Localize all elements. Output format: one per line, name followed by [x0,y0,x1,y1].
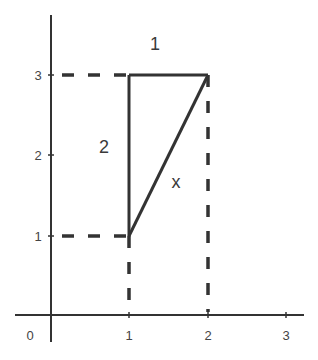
y-tick-2: 2 [34,148,41,163]
y-tick-1: 1 [34,229,41,244]
label-left-side: 2 [99,137,109,157]
x-tick-3: 3 [282,328,289,343]
dashed-guides [62,75,208,312]
y-tick-3: 3 [34,68,41,83]
axis-ticks [48,75,286,318]
triangle-hypotenuse [129,75,208,236]
label-top-side: 1 [150,34,160,54]
x-tick-1: 1 [125,328,132,343]
triangle [129,75,208,236]
triangle-diagram: 0 1 2 3 1 2 3 1 2 x [0,0,318,360]
x-tick-2: 2 [204,328,211,343]
x-tick-0: 0 [26,328,33,343]
label-hypotenuse: x [172,172,181,192]
